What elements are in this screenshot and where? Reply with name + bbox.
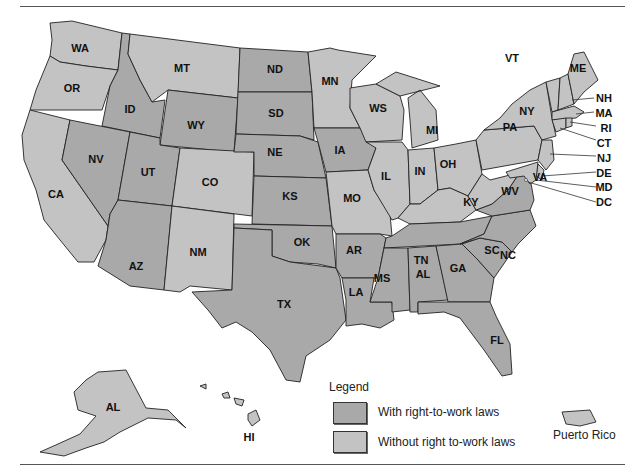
- state-label-DC: DC: [596, 196, 612, 208]
- state-label-NH: NH: [596, 92, 612, 104]
- state-HI[interactable]: [200, 384, 260, 426]
- bottom-rule: [20, 464, 625, 465]
- state-label-KY: KY: [463, 196, 479, 208]
- state-label-MA: MA: [595, 107, 612, 119]
- us-map: WAORCAIDNVMTWYUTAZCONMNDSDNEKSOKTXMNIAMO…: [0, 0, 629, 472]
- state-label-OK: OK: [294, 236, 311, 248]
- state-label-NM: NM: [189, 246, 206, 258]
- state-label-LA: LA: [349, 286, 364, 298]
- state-label-PA: PA: [503, 121, 518, 133]
- state-label-WY: WY: [187, 119, 205, 131]
- state-label-CT: CT: [597, 137, 612, 149]
- state-label-GA: GA: [450, 262, 467, 274]
- state-label-SD: SD: [268, 107, 283, 119]
- state-label-SC: SC: [484, 244, 499, 256]
- state-ME[interactable]: [568, 52, 598, 104]
- state-label-CA: CA: [48, 188, 64, 200]
- state-label-MD: MD: [595, 181, 612, 193]
- state-label-NV: NV: [88, 153, 104, 165]
- state-label-DE: DE: [596, 167, 611, 179]
- state-label-WA: WA: [71, 42, 89, 54]
- legend-swatch-with-rtw: [333, 402, 367, 424]
- legend-title: Legend: [329, 380, 369, 394]
- state-label-NE: NE: [267, 146, 282, 158]
- state-label-FL: FL: [490, 334, 504, 346]
- state-label-VA: VA: [533, 171, 548, 183]
- state-label-AK: AL: [106, 401, 121, 413]
- state-label-MI: MI: [426, 124, 438, 136]
- state-label-ND: ND: [267, 63, 283, 75]
- state-label-MT: MT: [174, 62, 190, 74]
- state-label-AR: AR: [346, 244, 362, 256]
- state-label-MS: MS: [374, 272, 391, 284]
- state-label-KS: KS: [282, 190, 297, 202]
- state-label-ME: ME: [570, 62, 587, 74]
- state-label-HI: HI: [244, 431, 255, 443]
- state-DC[interactable]: [525, 179, 528, 182]
- state-label-UT: UT: [141, 166, 156, 178]
- state-label-CO: CO: [202, 176, 219, 188]
- state-label-OR: OR: [64, 82, 81, 94]
- state-label-NJ: NJ: [597, 152, 611, 164]
- state-label-WV: WV: [501, 185, 519, 197]
- puerto-rico-shape[interactable]: [562, 410, 596, 426]
- state-label-NC: NC: [500, 249, 516, 261]
- state-label-MO: MO: [343, 192, 361, 204]
- state-label-IA: IA: [335, 144, 346, 156]
- state-label-IN: IN: [415, 165, 426, 177]
- state-label-MN: MN: [321, 75, 338, 87]
- state-label-TX: TX: [277, 298, 292, 310]
- legend-swatch-without-rtw: [333, 431, 367, 453]
- state-label-OH: OH: [440, 158, 457, 170]
- state-label-VT: VT: [505, 52, 519, 64]
- state-label-NY: NY: [519, 105, 535, 117]
- state-label-WS: WS: [369, 102, 387, 114]
- state-AK[interactable]: [40, 370, 186, 456]
- puerto-rico-label: Puerto Rico: [553, 428, 616, 442]
- state-label-IL: IL: [381, 170, 391, 182]
- state-label-RI: RI: [601, 122, 612, 134]
- state-label-TN: TN: [414, 254, 429, 266]
- state-label-AL: AL: [416, 268, 431, 280]
- legend-label-with-rtw: With right-to-work laws: [378, 405, 499, 419]
- state-RI[interactable]: [566, 118, 572, 128]
- state-label-AZ: AZ: [129, 260, 144, 272]
- state-label-ID: ID: [125, 103, 136, 115]
- legend-label-without-rtw: Without right to-work laws: [378, 435, 515, 449]
